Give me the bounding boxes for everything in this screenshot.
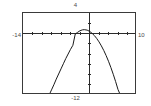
y-min-label: -12 [0,95,151,102]
plot-area [23,13,136,94]
plot-frame [22,12,136,94]
graph-viewport: 4 -14 10 -12 [0,0,151,106]
curve-group [49,30,120,94]
x-min-label: -14 [2,32,21,39]
y-max-label: 4 [0,2,151,9]
axes-group [23,13,136,94]
x-max-label: 10 [138,32,151,39]
data-curve [49,30,120,94]
